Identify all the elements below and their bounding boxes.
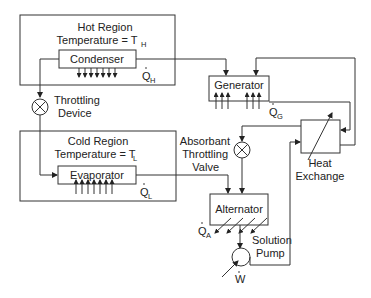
throttling-device-label-2: Device [58,107,92,119]
svg-text:A: A [206,231,211,240]
cold-region-temp-subscript: L [133,154,137,163]
heat-exchanger-to-valve-line [242,126,301,141]
absorption-refrigeration-diagram: Hot Region Temperature = T H Condenser Q… [0,0,371,298]
cold-region-title: Cold Region [68,135,129,147]
heat-exchange-label-2: Exchange [296,170,345,182]
throttle-valve-icon [32,99,48,115]
svg-text:W: W [235,273,246,285]
cold-region-temp-label: Temperature = T [55,148,136,160]
evaporator-to-alternator-line [136,175,228,193]
heat-exchanger: Heat Exchange [296,113,345,182]
generator-label: Generator [214,79,264,91]
condenser-to-throttle-line [40,59,59,97]
q-h-label: Q H [142,67,155,85]
condenser: Condenser Q H [59,50,155,85]
q-a-label: Q A [198,222,211,240]
svg-text:L: L [148,192,152,201]
evaporator: Evaporator Q L [58,166,152,201]
svg-text:H: H [150,76,155,85]
heat-exchange-label-1: Heat [308,157,331,169]
condenser-label: Condenser [70,53,124,65]
absorbant-valve-label-2: Throttling [182,148,228,160]
solution-pump-label-2: Pump [256,247,285,259]
absorbant-valve-label-1: Absorbant [180,135,230,147]
absorbant-valve-label-3: Valve [192,161,219,173]
q-g-label: Q G [269,103,283,121]
q-l-label: Q L [140,183,152,201]
absorbant-throttling-valve: Absorbant Throttling Valve [180,135,250,173]
alternator-label: Alternator [215,203,263,215]
generator: Generator Q G [209,76,283,121]
pump-icon [232,248,250,266]
absorbant-valve-icon [234,142,250,158]
to-generator-line-left [180,59,226,75]
w-label: W [235,271,246,285]
throttling-device-label-1: Throttling [54,94,100,106]
throttle-to-evaporator-line [40,115,57,175]
hot-region-temp-label: Temperature = T [57,34,138,46]
condenser-heat-arrows-icon [79,68,115,77]
evaporator-label: Evaporator [70,169,124,181]
solution-pump-label-1: Solution [252,234,292,246]
throttling-device: Throttling Device [32,94,100,119]
svg-text:G: G [277,112,283,121]
hot-region-temp-subscript: H [141,40,146,49]
solution-pump: Solution Pump W [222,234,292,285]
hot-region-title: Hot Region [77,21,132,33]
